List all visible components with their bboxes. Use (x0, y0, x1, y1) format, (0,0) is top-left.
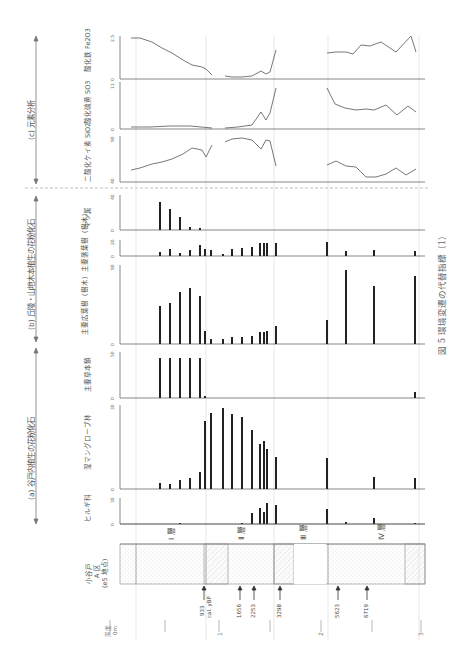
age-5623: 5623 (335, 604, 341, 618)
panel-label-broadleaf: 主要広葉樹（樹木） (82, 272, 89, 335)
figure-canvas (0, 0, 465, 655)
panel-label-fe2o3: 酸化鉄 Fe2O3 (85, 28, 92, 72)
age-2253: 2253 (251, 604, 257, 618)
tick-sio2-max: 90 (111, 136, 116, 142)
tick-herb-max: 50 (111, 351, 116, 357)
depth-ticks (110, 620, 421, 632)
tick-mangrove-max: 30 (111, 404, 116, 410)
tick-deciduous-max: 20 (111, 239, 116, 245)
herb-bars (159, 358, 416, 398)
panel-label-mangrove: 湿マングローブ林 (85, 414, 92, 470)
layer-label-4: Ⅳ 層 (378, 524, 386, 540)
depth-tick-1: 1 (217, 632, 223, 636)
panel-label-herb: 主要草本類 (85, 357, 92, 392)
figure-caption: 図 5 環境変遷の代替指標（1） (438, 231, 447, 355)
age-arrows (202, 586, 369, 600)
tick-so3-min: 0 (111, 128, 116, 131)
sio2-line (131, 138, 416, 177)
age-3298: 3298 (277, 604, 283, 618)
panel-label-rhizophoraceae: ヒルギ科 (85, 494, 92, 522)
tick-mangrove-min: 0 (111, 488, 116, 491)
site-label-line2: A 区 (94, 564, 101, 578)
section-label-b: (b) 丘陵・山地木本植生の花粉化石 (28, 219, 36, 330)
so3-line (131, 88, 416, 128)
pinus-bars (159, 202, 201, 230)
tick-pinus-max: 40 (111, 194, 116, 200)
deciduous-bars (159, 242, 416, 256)
age-1656: 1656 (237, 604, 243, 618)
age-933: 933 (200, 606, 206, 617)
depth-tick-2: 2 (318, 632, 324, 636)
tick-broadleaf-max: 90 (111, 264, 116, 270)
layer-label-1: Ⅰ 層 (168, 528, 176, 540)
depth-label-top: 深度 (106, 625, 112, 637)
section-label-c: (c) 元素分析 (28, 100, 36, 140)
panel-axes (120, 36, 425, 524)
tick-rhizo-min: 0 (111, 523, 116, 526)
tick-sio2-min: 40 (111, 178, 116, 184)
site-label-line1: 小谷戸 (86, 563, 93, 584)
rhizophoraceae-bars (179, 503, 416, 524)
depth-tick-3: 3 (418, 632, 424, 636)
fe2o3-line (131, 36, 416, 77)
panel-label-so3: 酸化硫黄 SO3 (85, 81, 92, 124)
site-label-line3: (e5 地点) (102, 559, 109, 588)
panel-label-deciduous: 主要落葉樹（樹木） (82, 209, 89, 272)
tick-fe2o3-min: 0 (111, 78, 116, 81)
panel-label-sio2: 二酸化ケイ素 SiO2 (85, 123, 92, 182)
tick-herb-min: 0 (111, 397, 116, 400)
layer-label-2: Ⅱ 層 (238, 527, 246, 540)
tick-rhizo-max: 30 (111, 497, 116, 503)
tick-pinus-min: 0 (111, 229, 116, 232)
depth-label-bottom: 0m (113, 626, 119, 635)
tick-deciduous-min: 0 (111, 255, 116, 258)
tick-so3-max: 11 (111, 83, 116, 89)
mangrove-bars (159, 408, 416, 489)
stratigraphic-column (120, 544, 425, 584)
tick-broadleaf-min: 0 (111, 343, 116, 346)
tick-fe2o3-max: 2.5 (111, 35, 116, 42)
section-label-a: (a) 谷戸内植生の花粉化石 (28, 417, 36, 500)
broadleaf-bars (159, 270, 416, 344)
age-933-unit: cal. yBP (207, 596, 213, 618)
age-6719: 6719 (364, 604, 370, 618)
layer-label-3: Ⅲ 層 (300, 525, 308, 540)
